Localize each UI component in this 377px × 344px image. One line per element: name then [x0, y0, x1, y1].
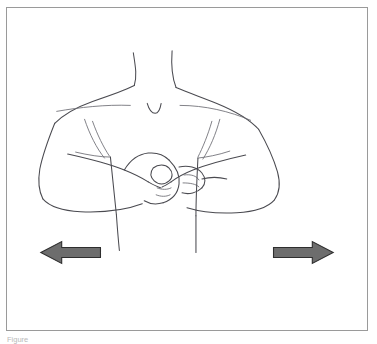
neck: [133, 51, 176, 88]
torso: [110, 157, 198, 252]
left-arrow: [41, 242, 101, 264]
sternal-notch: [147, 103, 161, 113]
exercise-illustration: [7, 8, 367, 330]
right-shoulder: [176, 88, 259, 130]
left-shoulder: [55, 86, 135, 124]
figure-caption: Figure: [7, 336, 207, 344]
exercise-illustration-frame: [6, 7, 368, 331]
left-arm: [39, 123, 161, 212]
right-arrow: [274, 242, 334, 264]
right-arm: [162, 129, 279, 213]
